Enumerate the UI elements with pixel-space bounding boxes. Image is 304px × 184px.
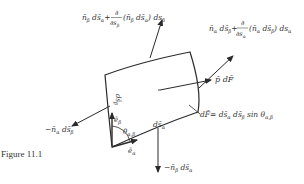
label-edge-alpha: ds̄α (153, 120, 166, 130)
label-pressure: p̄ dF̄ (215, 75, 234, 84)
label-right-alpha-frac-num: ∂ (241, 19, 245, 27)
label-unit-alpha: ēα (128, 147, 136, 156)
label-right-alpha-frac-den: ∂sα (236, 30, 246, 39)
label-angle-theta: θα,β (123, 128, 135, 138)
label-right-alpha-paren: (n̄α ds̄β) dsα (249, 24, 292, 35)
label-top-beta-frac-den: ∂sβ (110, 19, 120, 28)
force-arrow-left (72, 106, 110, 126)
pressure-arrow (160, 80, 211, 90)
label-area-element: dF̄= ds̄α ds̄β sin θα,β (200, 110, 273, 121)
center-point (158, 89, 160, 91)
label-right-alpha-force: n̄α ds̄β+ (209, 24, 237, 35)
label-edge-beta: ds̄β (112, 94, 122, 105)
label-unit-beta: ēβ (114, 116, 121, 126)
figure-caption: Figure 11.1 (1, 149, 42, 159)
surface-element-diagram: n̄β ds̄α+ ∂ ∂sβ (n̄β ds̄α) dsβ n̄α ds̄β+… (0, 0, 304, 184)
label-bottom-force: −n̄β ds̄α (164, 163, 193, 174)
force-arrow-top-beta (150, 20, 162, 58)
label-top-beta-force: n̄β ds̄α+ (82, 13, 110, 24)
label-top-beta-frac-num: ∂ (115, 9, 119, 17)
label-left-force: −n̄α ds̄β (45, 125, 74, 136)
label-top-beta-paren: (n̄β ds̄α) dsβ (123, 13, 165, 24)
